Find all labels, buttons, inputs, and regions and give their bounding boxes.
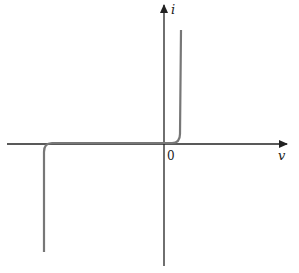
origin-label: 0: [167, 149, 175, 163]
y-axis-label: i: [171, 2, 175, 17]
iv-curve: [44, 30, 181, 252]
iv-characteristic-diagram: i v 0: [0, 0, 299, 273]
x-axis-label: v: [278, 148, 286, 163]
